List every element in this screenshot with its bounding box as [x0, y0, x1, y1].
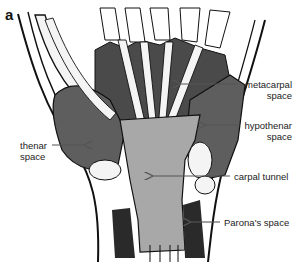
label-text: metacarpal — [240, 79, 292, 90]
label-hypothenar-space: hypothenar space — [240, 120, 292, 142]
label-carpal-tunnel: carpal tunnel — [234, 171, 288, 182]
panel-label: a — [5, 6, 13, 23]
parona-space — [183, 200, 205, 258]
label-metacarpal-space: metacarpal space — [240, 79, 292, 101]
label-parona-space: Parona's space — [224, 217, 289, 228]
label-text: hypothenar — [240, 120, 292, 131]
parona-space — [112, 208, 135, 258]
label-text: space — [240, 90, 292, 101]
label-thenar-space: thenar space — [20, 140, 47, 162]
label-text: space — [20, 151, 47, 162]
label-text: thenar — [20, 140, 47, 151]
hand-anatomy-diagram: a metacarpal space hypothenar space then… — [0, 0, 296, 267]
label-text: space — [240, 131, 292, 142]
